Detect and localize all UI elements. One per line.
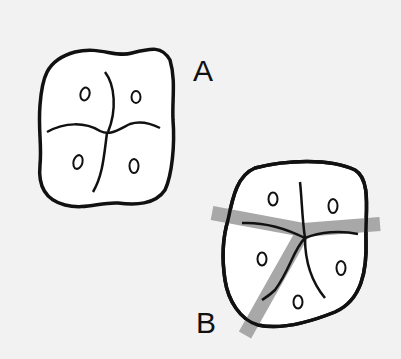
label-a: A bbox=[193, 56, 213, 86]
diagram-canvas: A B bbox=[0, 0, 401, 359]
tooth-a bbox=[39, 49, 173, 206]
label-b: B bbox=[196, 308, 216, 338]
tooth-b bbox=[212, 162, 380, 336]
